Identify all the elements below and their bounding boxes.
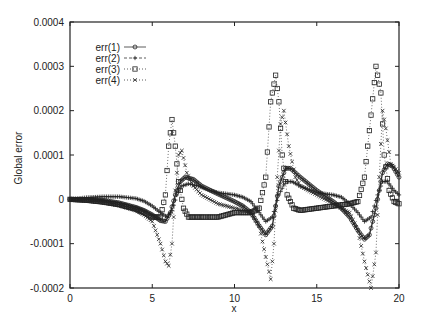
x-axis-label: x	[232, 303, 237, 314]
y-tick-label: 0.0004	[33, 17, 64, 28]
y-tick-label: 0.0003	[33, 61, 64, 72]
y-tick-label: -0.0002	[30, 283, 64, 294]
legend-label: err(3)	[96, 64, 120, 75]
y-tick-label: -0.0001	[30, 238, 64, 249]
legend: err(1)err(2)err(3)err(4)	[96, 42, 146, 86]
x-tick-label: 20	[393, 293, 405, 304]
y-tick-label: 0.0001	[33, 150, 64, 161]
y-tick-label: 0	[58, 194, 64, 205]
x-tick-label: 0	[67, 293, 73, 304]
series-layer	[68, 64, 401, 290]
legend-label: err(2)	[96, 53, 120, 64]
global-error-chart: 051015200.00040.00030.00020.00010-0.0001…	[0, 0, 421, 332]
legend-label: err(1)	[96, 42, 120, 53]
axes: 051015200.00040.00030.00020.00010-0.0001…	[30, 17, 405, 305]
y-axis-label: Global error	[13, 131, 24, 184]
legend-label: err(4)	[96, 75, 120, 86]
x-tick-label: 15	[311, 293, 323, 304]
x-tick-label: 5	[149, 293, 155, 304]
y-tick-label: 0.0002	[33, 105, 64, 116]
